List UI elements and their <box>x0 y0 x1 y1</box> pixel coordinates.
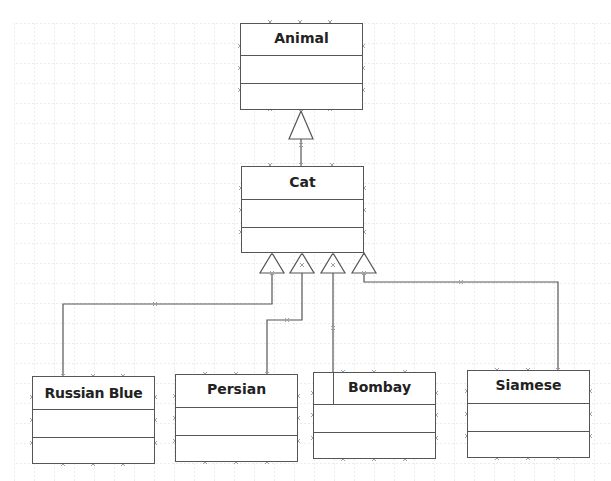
attributes-compartment-divider <box>468 403 589 404</box>
class-name: Persian <box>176 381 297 397</box>
methods-compartment-divider <box>176 435 297 436</box>
attributes-compartment-divider <box>314 404 435 405</box>
class-name: Russian Blue <box>33 385 154 401</box>
class-name: Siamese <box>468 377 589 393</box>
class-siamese[interactable]: Siamese <box>467 370 590 458</box>
methods-compartment-divider <box>241 83 362 84</box>
attributes-compartment-divider <box>176 407 297 408</box>
methods-compartment-divider <box>468 431 589 432</box>
class-animal[interactable]: Animal <box>240 23 363 110</box>
class-russian-blue[interactable]: Russian Blue <box>32 376 155 464</box>
class-name: Cat <box>242 174 363 190</box>
connector-overlap-line <box>333 372 334 404</box>
class-persian[interactable]: Persian <box>175 374 298 462</box>
methods-compartment-divider <box>242 227 363 228</box>
class-bombay[interactable]: Bombay <box>313 372 436 459</box>
class-cat[interactable]: Cat <box>241 166 364 253</box>
attributes-compartment-divider <box>242 199 363 200</box>
attributes-compartment-divider <box>33 409 154 410</box>
methods-compartment-divider <box>33 437 154 438</box>
attributes-compartment-divider <box>241 55 362 56</box>
class-name: Animal <box>241 30 362 46</box>
methods-compartment-divider <box>314 432 435 433</box>
